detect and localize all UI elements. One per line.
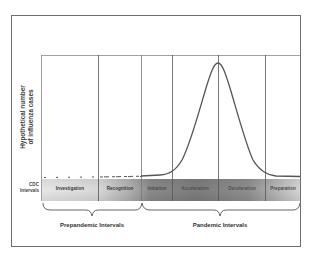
prepandemic-bracket [43, 203, 142, 216]
prepandemic-intervals-label: Prepandemic Intervals [60, 222, 124, 228]
interval-preparation: Preparation [270, 186, 296, 191]
y-axis-label-line1: Hypothetical number [19, 85, 27, 149]
pandemic-intervals-diagram: Hypothetical number of influenza cases C… [0, 0, 313, 258]
interval-recognition: Recognition [107, 186, 134, 191]
pandemic-intervals-label: Pandemic Intervals [193, 222, 248, 228]
interval-deceleration: Deceleration [228, 186, 256, 191]
cdc-label-line2: Intervals [12, 188, 39, 194]
epidemic-curve [141, 63, 300, 177]
interval-investigation: Investigation [56, 186, 84, 191]
outer-frame [12, 16, 301, 247]
interval-acceleration: Acceleration [181, 186, 209, 191]
interval-initiation: Initiation [147, 186, 166, 191]
y-axis-label: Hypothetical number of influenza cases [19, 85, 35, 149]
cdc-intervals-label: CDC Intervals [12, 182, 39, 194]
pandemic-bracket [142, 203, 300, 216]
diagram-graphics [0, 0, 313, 258]
y-axis-label-line2: of influenza cases [27, 85, 35, 149]
